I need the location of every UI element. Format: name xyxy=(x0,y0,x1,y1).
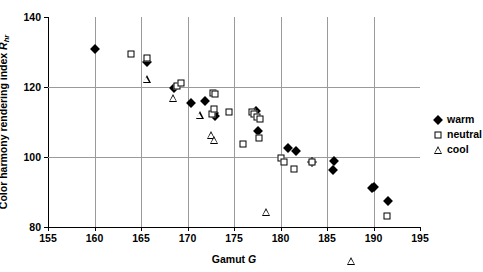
y-axis-title-subscript: hr xyxy=(2,35,11,43)
data-point-warm xyxy=(383,196,393,206)
data-point-neutral xyxy=(127,51,134,58)
x-tick xyxy=(234,227,235,231)
data-point-cool xyxy=(143,75,151,83)
x-tick-label: 185 xyxy=(318,233,336,244)
y-tick-label: 100 xyxy=(23,152,41,163)
y-tick xyxy=(44,157,48,158)
data-point-neutral xyxy=(240,140,247,147)
data-point-neutral xyxy=(281,158,288,165)
y-tick-label: 120 xyxy=(23,82,41,93)
x-tick-label: 175 xyxy=(225,233,243,244)
data-point-warm xyxy=(90,44,100,54)
x-tick-label: 180 xyxy=(272,233,290,244)
gridline-vertical xyxy=(188,17,189,227)
x-tick xyxy=(141,227,142,231)
data-point-neutral xyxy=(291,165,298,172)
gridline-vertical xyxy=(374,17,375,227)
x-axis-title-italic: G xyxy=(248,253,256,265)
data-point-neutral xyxy=(256,135,263,142)
gridline-vertical xyxy=(141,17,142,227)
x-tick xyxy=(48,227,49,231)
cropped-text-sliver xyxy=(155,0,435,7)
data-point-neutral xyxy=(257,116,264,123)
data-point-cool xyxy=(262,208,270,216)
x-tick xyxy=(188,227,189,231)
x-tick-label: 165 xyxy=(132,233,150,244)
data-point-cool xyxy=(169,94,177,102)
legend-item-neutral: neutral xyxy=(432,127,482,142)
open-square-icon xyxy=(432,129,444,141)
x-axis-title-plain: Gamut xyxy=(212,253,245,265)
filled-diamond-icon xyxy=(432,114,444,126)
legend-item-warm: warm xyxy=(432,112,482,127)
data-point-neutral xyxy=(177,80,184,87)
legend-label: neutral xyxy=(447,127,482,142)
x-tick xyxy=(95,227,96,231)
legend-marker xyxy=(434,146,442,154)
x-tick-label: 160 xyxy=(86,233,104,244)
chart-figure: 80100120140155160165170175180185190195 G… xyxy=(0,0,483,272)
data-point-neutral xyxy=(309,158,316,165)
y-axis-line xyxy=(48,17,49,228)
y-tick xyxy=(44,17,48,18)
legend-item-cool: cool xyxy=(432,142,482,157)
data-point-neutral xyxy=(143,54,150,61)
y-axis-title-italic: R xyxy=(0,42,9,50)
legend-marker xyxy=(433,115,443,125)
x-tick-label: 155 xyxy=(39,233,57,244)
legend-label: warm xyxy=(447,112,474,127)
x-tick xyxy=(374,227,375,231)
data-point-neutral xyxy=(212,90,219,97)
data-point-warm xyxy=(200,96,210,106)
data-point-warm xyxy=(328,165,338,175)
data-point-cool xyxy=(210,136,218,144)
y-axis-title-plain: Color harmony rendering index xyxy=(0,53,9,209)
x-tick-label: 170 xyxy=(179,233,197,244)
data-point-neutral xyxy=(211,106,218,113)
x-tick-label: 195 xyxy=(411,233,429,244)
x-tick xyxy=(281,227,282,231)
gridline-vertical xyxy=(281,17,282,227)
legend-marker xyxy=(435,131,442,138)
x-axis-title: Gamut G xyxy=(48,253,420,265)
data-point-cool xyxy=(196,111,204,119)
x-tick xyxy=(420,227,421,231)
legend-label: cool xyxy=(447,142,469,157)
y-tick xyxy=(44,87,48,88)
data-point-neutral xyxy=(226,108,233,115)
x-tick xyxy=(327,227,328,231)
x-tick-label: 190 xyxy=(365,233,383,244)
data-point-neutral xyxy=(384,213,391,220)
gridline-vertical xyxy=(234,17,235,227)
y-tick-label: 80 xyxy=(29,222,41,233)
open-triangle-icon xyxy=(432,144,444,156)
gridline-vertical xyxy=(327,17,328,227)
y-axis-title: Color harmony rendering index Rhr xyxy=(0,35,11,209)
chart-legend: warmneutralcool xyxy=(432,112,482,157)
y-tick-label: 140 xyxy=(23,12,41,23)
plot-area: 80100120140155160165170175180185190195 G… xyxy=(48,17,420,227)
